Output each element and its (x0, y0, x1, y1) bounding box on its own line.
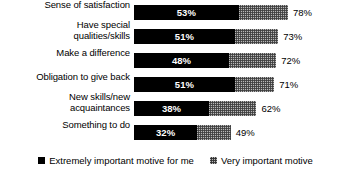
bar-segment-secondary (229, 53, 276, 68)
bar-segment-value: 48% (172, 53, 191, 68)
category-label: New skills/newacquaintances (2, 92, 130, 113)
category-label: Something to do (2, 120, 130, 131)
bar-segment-primary: 53% (134, 5, 239, 20)
bar-segment-primary: 51% (134, 29, 235, 44)
bar-segment-value: 53% (177, 5, 196, 20)
stacked-bar: 48% (134, 53, 276, 68)
chart-row: Make a difference48%72% (0, 48, 351, 72)
category-label: Obligation to give back (2, 72, 130, 83)
bar-segment-secondary (235, 29, 278, 44)
bar-total-value: 72% (281, 53, 300, 68)
bar-segment-primary: 51% (134, 77, 235, 92)
category-label-line: acquaintances (2, 103, 130, 114)
category-label-line: Sense of satisfaction (2, 0, 130, 11)
stacked-bar-chart: Sense of satisfaction53%78%Have specialq… (0, 0, 351, 179)
category-label-line: New skills/new (2, 92, 130, 103)
stacked-bar: 51% (134, 77, 274, 92)
bar-segment-value: 32% (156, 125, 175, 140)
category-label: Sense of satisfaction (2, 0, 130, 11)
legend-label: Extremely important motive for me (49, 155, 194, 166)
bar-segment-value: 51% (175, 77, 194, 92)
bar-segment-primary: 38% (134, 101, 209, 116)
stacked-bar: 53% (134, 5, 288, 20)
chart-row: New skills/newacquaintances38%62% (0, 96, 351, 120)
bar-total-value: 62% (261, 101, 280, 116)
stacked-bar: 38% (134, 101, 256, 116)
chart-legend: Extremely important motive for meVery im… (0, 155, 351, 166)
legend-label: Very important motive (221, 155, 313, 166)
category-label-line: Something to do (2, 120, 130, 131)
bar-segment-primary: 32% (134, 125, 197, 140)
bar-segment-value: 38% (162, 101, 181, 116)
category-label-line: qualities/skills (2, 31, 130, 42)
category-label-line: Make a difference (2, 48, 130, 59)
bar-total-value: 71% (279, 77, 298, 92)
stacked-bar: 32% (134, 125, 231, 140)
bar-segment-secondary (197, 125, 231, 140)
legend-swatch-secondary-icon (210, 157, 217, 164)
legend-item[interactable]: Very important motive (210, 155, 313, 166)
bar-segment-value: 51% (175, 29, 194, 44)
bar-segment-secondary (209, 101, 256, 116)
stacked-bar: 51% (134, 29, 278, 44)
category-label: Have specialqualities/skills (2, 20, 130, 41)
bar-segment-secondary (235, 77, 275, 92)
chart-row: Something to do32%49% (0, 120, 351, 144)
legend-swatch-primary-icon (38, 157, 45, 164)
chart-row: Have specialqualities/skills51%73% (0, 24, 351, 48)
category-label: Make a difference (2, 48, 130, 59)
bar-total-value: 78% (293, 5, 312, 20)
bar-total-value: 73% (283, 29, 302, 44)
category-label-line: Have special (2, 20, 130, 31)
bar-total-value: 49% (236, 125, 255, 140)
bar-segment-primary: 48% (134, 53, 229, 68)
bar-segment-secondary (239, 5, 288, 20)
legend-item[interactable]: Extremely important motive for me (38, 155, 194, 166)
category-label-line: Obligation to give back (2, 72, 130, 83)
